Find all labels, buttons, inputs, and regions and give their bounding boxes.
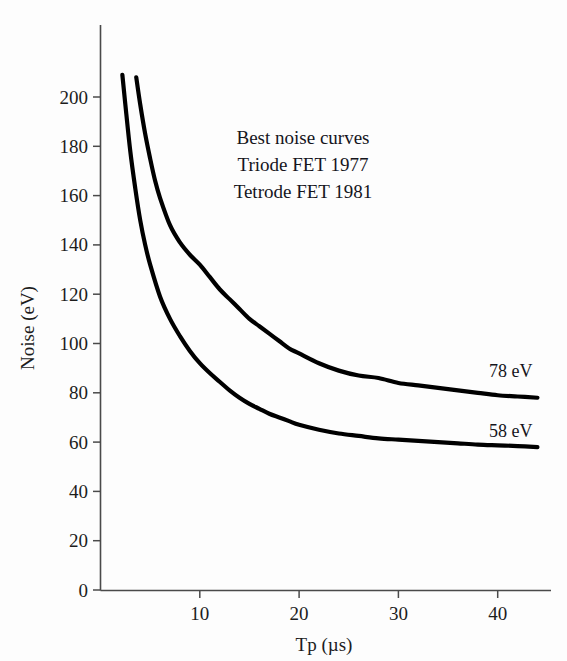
x-tick-marks	[200, 591, 498, 599]
x-tick-labels: 10 20 30 40	[190, 603, 507, 624]
annotation-line-3: Tetrode FET 1981	[234, 181, 373, 202]
y-tick-label-200: 200	[60, 87, 89, 108]
axes	[101, 25, 552, 591]
x-tick-label-10: 10	[190, 603, 209, 624]
y-tick-label-60: 60	[69, 432, 88, 453]
x-axis-title: Tp (µs)	[296, 634, 353, 656]
annotation-line-2: Triode FET 1977	[238, 154, 369, 175]
curve-label-upper: 78 eV	[489, 361, 533, 381]
y-tick-label-80: 80	[69, 382, 88, 403]
y-tick-label-0: 0	[79, 580, 89, 601]
y-tick-label-40: 40	[69, 481, 88, 502]
x-tick-label-20: 20	[290, 603, 309, 624]
x-tick-label-40: 40	[488, 603, 507, 624]
y-tick-marks	[93, 97, 101, 590]
noise-curves-figure: 0 20 40 60 80 100 120 140 160 180 200 10…	[0, 0, 567, 661]
y-tick-label-140: 140	[60, 234, 89, 255]
annotation-block: Best noise curves Triode FET 1977 Tetrod…	[234, 127, 373, 202]
y-tick-label-180: 180	[60, 136, 89, 157]
y-tick-labels: 0 20 40 60 80 100 120 140 160 180 200	[60, 87, 89, 601]
annotation-line-1: Best noise curves	[237, 127, 370, 148]
y-tick-label-100: 100	[60, 333, 89, 354]
x-tick-label-30: 30	[389, 603, 408, 624]
curve-label-lower: 58 eV	[489, 421, 533, 441]
chart-canvas: 0 20 40 60 80 100 120 140 160 180 200 10…	[0, 0, 567, 661]
y-axis-title: Noise (eV)	[17, 286, 39, 370]
y-tick-label-20: 20	[69, 530, 88, 551]
y-tick-label-160: 160	[60, 185, 89, 206]
y-tick-label-120: 120	[60, 284, 89, 305]
curve-triode-fet-1977	[136, 77, 537, 397]
